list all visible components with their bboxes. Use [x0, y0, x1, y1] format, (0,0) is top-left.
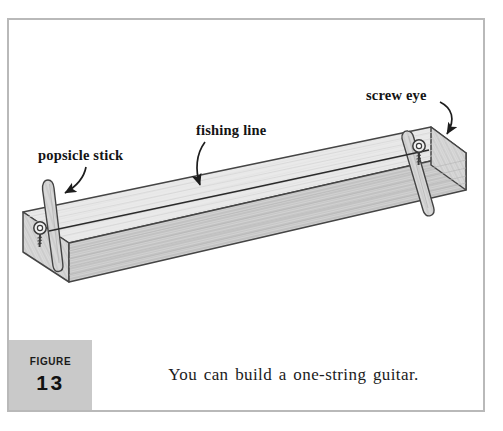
popsicle-stick-label: popsicle stick: [38, 147, 124, 163]
figure-word: Figure: [30, 357, 71, 367]
fishing-line-label: fishing line: [196, 122, 267, 138]
caption-text: You can build a one-string guitar.: [168, 365, 418, 385]
screw-eye-label: screw eye: [366, 87, 427, 103]
guitar-illustration: popsicle stick fishing line screw eye: [9, 20, 483, 336]
illustration-area: popsicle stick fishing line screw eye: [9, 20, 483, 336]
figure-root: popsicle stick fishing line screw eye Fi…: [0, 0, 503, 431]
figure-number: 13: [36, 372, 64, 393]
caption-box: You can build a one-string guitar.: [104, 340, 483, 410]
caption-gap: [92, 340, 104, 410]
screw-eye-arrow: [440, 102, 452, 134]
caption-strip: Figure 13 You can build a one-string gui…: [9, 340, 483, 410]
annotation-screw-eye: screw eye: [366, 87, 452, 134]
popsicle-stick-arrow: [65, 167, 86, 193]
figure-badge: Figure 13: [9, 340, 92, 410]
